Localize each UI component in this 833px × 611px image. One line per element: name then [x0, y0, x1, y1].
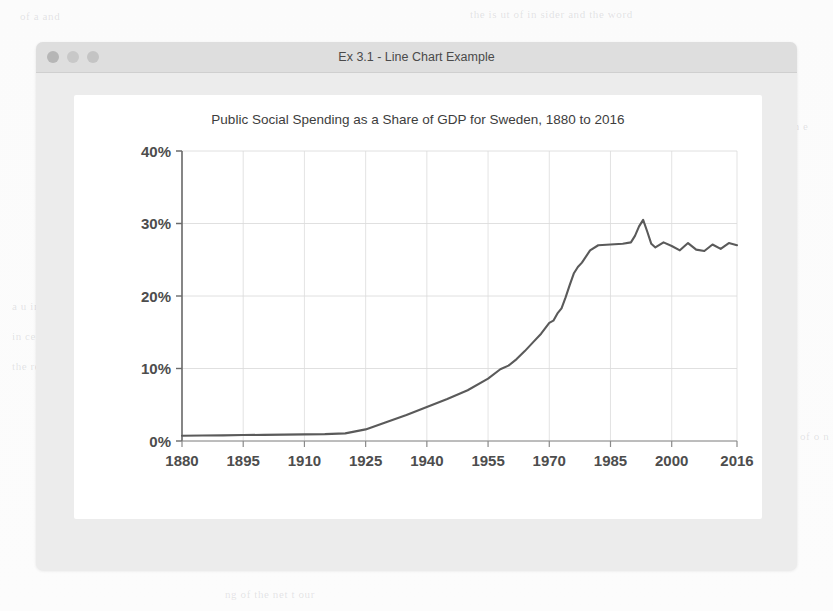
app-window: Ex 3.1 - Line Chart Example Public Socia…: [36, 42, 797, 570]
ghost-text: the is ut of in sider and the word: [470, 8, 633, 20]
x-tick-label: 2000: [655, 452, 688, 469]
ghost-text: ng of the net t our: [225, 588, 315, 600]
x-tick-label: 1940: [410, 452, 443, 469]
data-series: [182, 220, 737, 436]
ghost-text: of a and: [20, 10, 60, 22]
x-axis-tick-labels: 1880189519101925194019551970198520002016: [165, 452, 753, 469]
zoom-button-icon[interactable]: [87, 51, 99, 63]
x-tick-label: 1970: [533, 452, 566, 469]
y-tick-label: 20%: [141, 288, 171, 305]
tick-marks: [176, 151, 737, 447]
y-tick-label: 0%: [149, 433, 171, 450]
y-axis-tick-labels: 0%10%20%30%40%: [141, 143, 171, 450]
window-titlebar[interactable]: Ex 3.1 - Line Chart Example: [36, 42, 797, 73]
y-tick-label: 40%: [141, 143, 171, 160]
plot-area: 0%10%20%30%40% 1880189519101925194019551…: [74, 95, 762, 519]
series-line: [182, 220, 737, 436]
minimize-button-icon[interactable]: [67, 51, 79, 63]
chart-canvas: Public Social Spending as a Share of GDP…: [74, 95, 762, 519]
window-body: Public Social Spending as a Share of GDP…: [36, 73, 797, 570]
traffic-light-group: [47, 42, 99, 72]
x-tick-label: 1985: [594, 452, 627, 469]
x-tick-label: 1895: [227, 452, 260, 469]
x-tick-label: 1880: [165, 452, 198, 469]
x-tick-label: 1955: [471, 452, 504, 469]
close-button-icon[interactable]: [47, 51, 59, 63]
y-tick-label: 30%: [141, 215, 171, 232]
x-tick-label: 1910: [288, 452, 321, 469]
y-tick-label: 10%: [141, 360, 171, 377]
x-tick-label: 2016: [720, 452, 753, 469]
page-root: the is ut of in sider and the wordof a a…: [0, 0, 833, 611]
line-chart-svg: 0%10%20%30%40% 1880189519101925194019551…: [74, 95, 762, 519]
x-tick-label: 1925: [349, 452, 382, 469]
window-title: Ex 3.1 - Line Chart Example: [36, 50, 797, 64]
ghost-text: of o n: [800, 430, 829, 442]
gridlines: [182, 151, 737, 441]
chart-root: Public Social Spending as a Share of GDP…: [74, 95, 762, 519]
